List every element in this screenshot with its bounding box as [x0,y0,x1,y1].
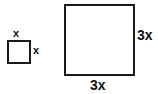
large-square-bottom-label: 3x [90,78,106,92]
geometry-figure: x x 3x 3x [0,0,158,94]
large-square-right-label: 3x [137,28,153,42]
small-square-right-label: x [33,45,39,56]
small-square-shape [7,40,31,64]
small-square-top-label: x [13,28,19,39]
large-square-shape [64,4,135,76]
